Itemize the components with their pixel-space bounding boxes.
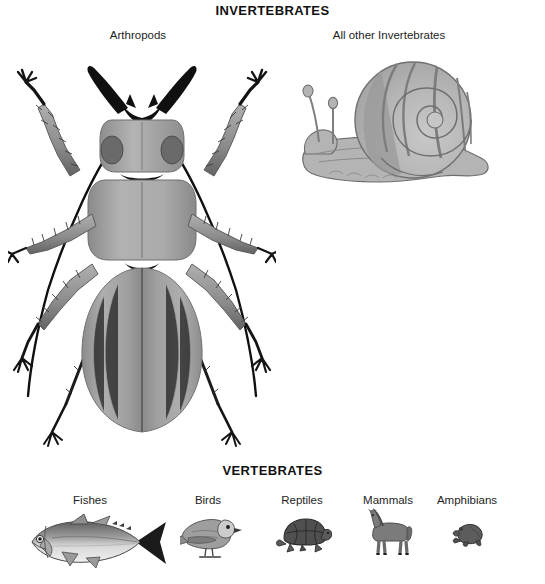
- horse-illustration: [363, 508, 415, 560]
- caption-reptiles: Reptiles: [281, 494, 323, 506]
- caption-mammals: Mammals: [363, 494, 413, 506]
- bird-illustration: [180, 508, 242, 566]
- turtle-illustration: [276, 514, 332, 558]
- caption-all-other-invertebrates: All other Invertebrates: [333, 29, 446, 41]
- horse-svg: [363, 508, 415, 560]
- turtle-svg: [276, 514, 332, 558]
- section-title-vertebrates: VERTEBRATES: [0, 463, 545, 478]
- snail-shell: [355, 62, 471, 178]
- beetle-mandibles: [87, 66, 196, 124]
- beetle-thorax: [88, 180, 196, 271]
- beetle-svg: [8, 52, 276, 452]
- caption-amphibians: Amphibians: [437, 494, 497, 506]
- caption-arthropods: Arthropods: [110, 29, 166, 41]
- snail-svg: [285, 58, 500, 198]
- caption-birds: Birds: [195, 494, 221, 506]
- section-title-invertebrates: INVERTEBRATES: [0, 3, 545, 18]
- fish-illustration: [26, 512, 171, 574]
- caption-fishes: Fishes: [73, 494, 107, 506]
- figure-canvas: INVERTEBRATES Arthropods All other Inver…: [0, 0, 545, 584]
- beetle-illustration: [8, 52, 276, 452]
- frog-svg: [452, 518, 486, 552]
- bird-svg: [180, 508, 242, 566]
- beetle-head: [100, 120, 184, 182]
- frog-illustration: [452, 518, 486, 552]
- snail-illustration: [285, 58, 500, 198]
- fish-svg: [26, 512, 171, 574]
- beetle-elytra: [82, 268, 202, 432]
